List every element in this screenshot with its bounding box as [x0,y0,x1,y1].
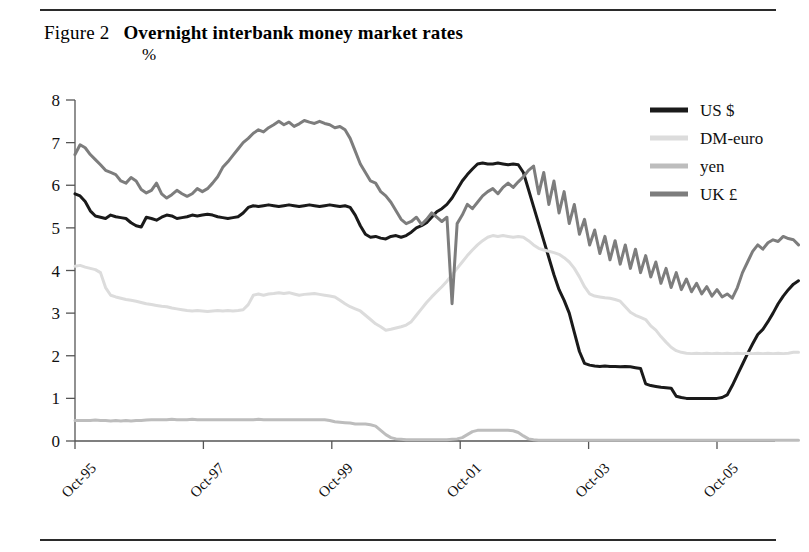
y-tick-label: 3 [52,304,61,323]
y-tick-label: 7 [52,134,61,153]
figure-panel: Figure 2 Overnight interbank money marke… [0,0,809,552]
x-tick-label: Oct-95 [58,460,99,501]
y-tick-label: 4 [52,262,61,281]
y-axis: 012345678 [52,91,76,451]
chart-legend: US $DM-euroyenUK £ [650,101,763,204]
y-tick-label: 0 [52,432,61,451]
series-line-yen [75,419,799,440]
line-chart: 012345678 Oct-95Oct-97Oct-99Oct-01Oct-03… [0,0,809,552]
series-line-dm-euro [75,236,799,354]
legend-label: UK £ [700,185,737,204]
y-tick-label: 2 [52,347,61,366]
legend-label: US $ [700,101,734,120]
x-tick-label: Oct-97 [187,459,228,500]
x-tick-label: Oct-01 [444,460,485,501]
chart-plot-area: 012345678 Oct-95Oct-97Oct-99Oct-01Oct-03… [0,0,809,552]
x-axis: Oct-95Oct-97Oct-99Oct-01Oct-03Oct-05 [58,441,775,501]
series-line-us [75,163,799,398]
y-tick-label: 1 [52,389,61,408]
x-tick-label: Oct-03 [572,460,613,501]
legend-label: DM-euro [700,129,763,148]
legend-label: yen [700,157,725,176]
series-lines [75,120,799,440]
x-tick-label: Oct-99 [315,460,356,501]
bottom-divider-rule [40,539,776,541]
y-tick-label: 6 [52,176,61,195]
x-tick-label: Oct-05 [700,460,741,501]
y-tick-label: 5 [52,219,61,238]
y-tick-label: 8 [52,91,61,110]
